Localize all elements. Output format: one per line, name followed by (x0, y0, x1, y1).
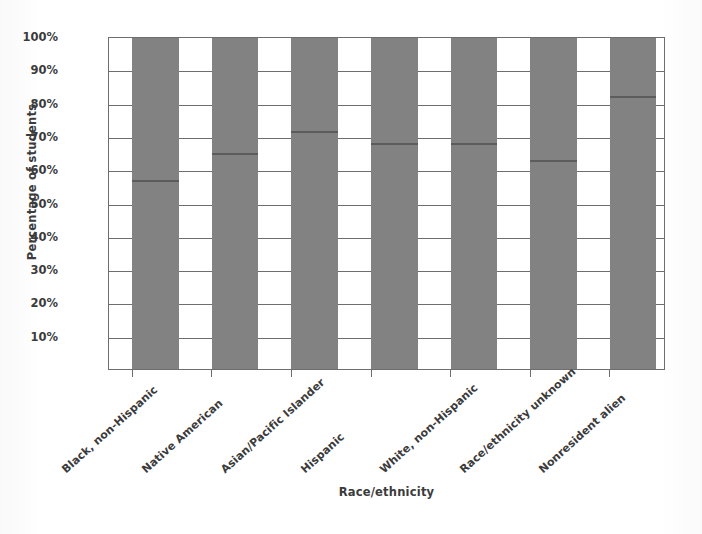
bar (610, 38, 657, 369)
bar-value-line (451, 143, 498, 145)
x-axis-category-label: Hispanic (298, 430, 347, 476)
x-axis-tick (609, 370, 610, 377)
bar (212, 38, 259, 369)
y-tick-label: 100% (0, 30, 58, 44)
bar-value-line (212, 153, 259, 155)
y-tick-label: 20% (0, 296, 58, 310)
bar (132, 38, 179, 369)
y-tick-label: 60% (0, 163, 58, 177)
bar (291, 38, 338, 369)
plot-inner (109, 38, 664, 369)
bar (530, 38, 577, 369)
bar-value-line (530, 160, 577, 162)
chart-figure: Percentage of students 10%20%30%40%50%60… (0, 0, 702, 534)
y-tick-label: 50% (0, 197, 58, 211)
x-axis-category-label: Nonresident alien (537, 391, 629, 476)
bar (371, 38, 418, 369)
x-axis-tick (371, 370, 372, 377)
x-axis-tick (530, 370, 531, 377)
x-axis-category-label: Native American (139, 397, 225, 476)
x-axis-tick (132, 370, 133, 377)
y-tick-label: 90% (0, 63, 58, 77)
x-axis-tick (291, 370, 292, 377)
x-axis-title: Race/ethnicity (108, 485, 665, 499)
bar-value-line (291, 131, 338, 133)
y-tick-label: 80% (0, 97, 58, 111)
y-tick-label: 40% (0, 230, 58, 244)
y-tick-label: 30% (0, 263, 58, 277)
plot-area (108, 37, 665, 370)
x-axis-tick (450, 370, 451, 377)
y-tick-label: 70% (0, 130, 58, 144)
bar (451, 38, 498, 369)
bar-value-line (132, 180, 179, 182)
y-tick-label: 10% (0, 330, 58, 344)
x-axis-tick (211, 370, 212, 377)
bar-value-line (610, 96, 657, 98)
bar-value-line (371, 143, 418, 145)
